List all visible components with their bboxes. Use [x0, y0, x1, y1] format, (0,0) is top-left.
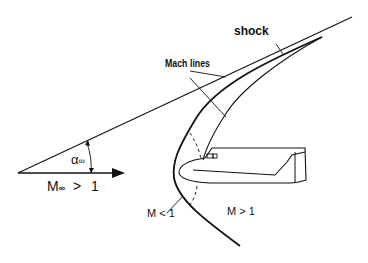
- freestream-arrow-head: [112, 168, 125, 178]
- shuttle-wing-line: [193, 170, 275, 175]
- freestream-condition: > 1: [73, 178, 102, 194]
- diagram-canvas: [0, 0, 368, 263]
- subsonic-region-label: M < 1: [147, 207, 175, 219]
- mach-lines-leader-1: [190, 71, 226, 77]
- shock-label: shock: [234, 24, 269, 38]
- shuttle-body: [179, 148, 306, 183]
- alpha-subscript: ∞: [79, 156, 85, 166]
- supersonic-region-label: M > 1: [227, 205, 255, 217]
- shuttle-cockpit-window-2: [213, 154, 217, 158]
- sonic-line-dashed-lower: [190, 186, 197, 205]
- mach-line-curve: [203, 37, 322, 160]
- freestream-subscript: ∞: [59, 183, 65, 193]
- shuttle-tail: [275, 152, 305, 175]
- freestream-m: M: [47, 178, 59, 194]
- inclined-reference-line: [18, 17, 352, 173]
- freestream-mach-label: M∞ > 1: [47, 178, 102, 194]
- mach-lines-label: Mach lines: [165, 58, 210, 69]
- sonic-line-dashed: [190, 133, 201, 160]
- alpha-label: α∞: [71, 152, 85, 167]
- alpha-symbol: α: [71, 152, 79, 167]
